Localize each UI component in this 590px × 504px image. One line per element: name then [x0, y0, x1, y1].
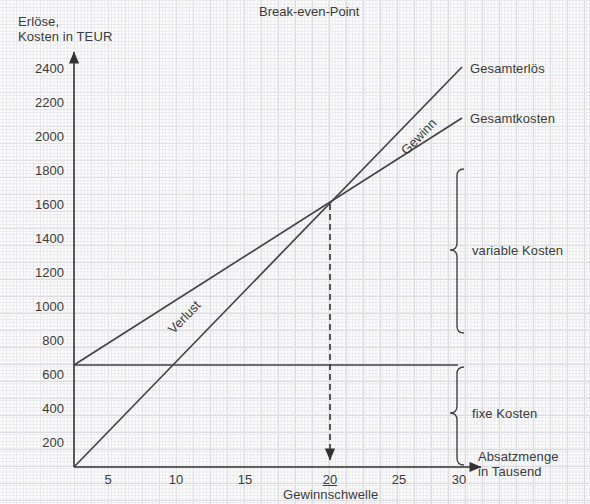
y-tick-2000: 2000 — [18, 129, 64, 144]
y-tick-800: 800 — [18, 333, 64, 348]
annotation-variable-kosten: variable Kosten — [472, 243, 563, 258]
gesamterloes-line — [74, 67, 462, 467]
y-tick-1800: 1800 — [18, 163, 64, 178]
y-tick-200: 200 — [18, 435, 64, 450]
x-tick-10: 10 — [159, 472, 193, 487]
x-axis-label-line1: Absatzmenge — [478, 449, 559, 464]
y-tick-1000: 1000 — [18, 299, 64, 314]
y-axis-label-line1: Erlöse, — [18, 14, 59, 29]
y-tick-1200: 1200 — [18, 265, 64, 280]
y-axis-label-line2: Kosten in TEUR — [18, 29, 112, 44]
x-tick-20-breakeven: 20 — [313, 472, 347, 487]
x-tick-25: 25 — [382, 472, 416, 487]
gesamtkosten-line — [74, 118, 462, 365]
y-tick-2400: 2400 — [18, 61, 64, 76]
y-tick-1600: 1600 — [18, 197, 64, 212]
y-tick-400: 400 — [18, 401, 64, 416]
break-even-chart: Break-even-Point Erlöse, Kosten in TEUR … — [0, 0, 590, 504]
x-tick-15: 15 — [228, 472, 262, 487]
annotation-fixe-kosten: fixe Kosten — [472, 406, 537, 421]
fixe-kosten-brace — [450, 367, 464, 465]
variable-kosten-brace — [450, 169, 464, 333]
y-tick-2200: 2200 — [18, 95, 64, 110]
x-axis-label-line2: in Tausend — [478, 464, 542, 479]
legend-gesamterloes: Gesamterlös — [470, 61, 545, 76]
y-tick-1400: 1400 — [18, 231, 64, 246]
chart-title: Break-even-Point — [259, 4, 359, 19]
breakeven-caption: Gewinnschwelle — [283, 487, 378, 502]
y-tick-600: 600 — [18, 367, 64, 382]
x-tick-30: 30 — [442, 472, 476, 487]
x-tick-5: 5 — [91, 472, 125, 487]
legend-gesamtkosten: Gesamtkosten — [470, 111, 555, 126]
